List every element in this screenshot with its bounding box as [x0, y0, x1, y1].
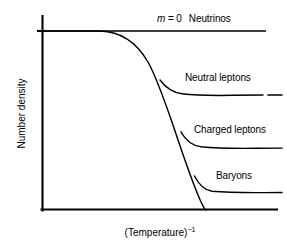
x-axis-label-exponent: −1	[187, 226, 195, 233]
y-axis-label: Number density	[16, 54, 27, 174]
curve-equilibrium-decline	[43, 31, 206, 210]
figure-container: m = 0Neutrinos Neutral leptons Charged l…	[0, 0, 287, 249]
label-neutral-leptons: Neutral leptons	[185, 72, 251, 83]
label-neutrinos: m = 0Neutrinos	[157, 13, 231, 24]
x-axis-label: (Temperature)−1	[42, 227, 278, 238]
label-neutrinos-mass-symbol: m	[157, 13, 165, 24]
x-axis-label-base: (Temperature)	[125, 227, 188, 238]
label-charged-leptons: Charged leptons	[194, 124, 266, 135]
label-neutrinos-species: Neutrinos	[189, 13, 231, 24]
label-neutrinos-equals-zero: = 0	[168, 13, 182, 24]
label-baryons: Baryons	[216, 170, 252, 181]
